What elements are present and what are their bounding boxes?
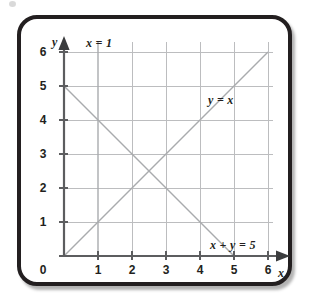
scan-artifact-speck [9,1,16,7]
grid-lines [59,42,273,256]
y-axis-arrowhead [58,36,69,50]
figure-canvas: 6 5 4 3 2 1 0 1 2 3 4 5 6 y x x = 1 y = … [0,0,314,308]
plot-svg [21,19,296,290]
graph-card: 6 5 4 3 2 1 0 1 2 3 4 5 6 y x x = 1 y = … [17,15,292,286]
coordinate-plot: 6 5 4 3 2 1 0 1 2 3 4 5 6 y x x = 1 y = … [21,19,296,290]
x-axis-arrowhead [276,250,290,261]
